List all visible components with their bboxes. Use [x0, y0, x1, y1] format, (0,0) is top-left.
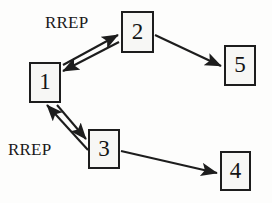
- edge-2-to-5: [155, 35, 221, 66]
- node-2[interactable]: 2: [121, 11, 154, 53]
- diagram-canvas: 1 2 3 4 5 RREP RREP: [0, 0, 272, 203]
- node-1[interactable]: 1: [29, 62, 61, 103]
- node-3[interactable]: 3: [88, 129, 120, 169]
- node-4-label: 4: [230, 159, 242, 182]
- edge-2-to-1: [63, 42, 119, 71]
- edge-1-to-2: [63, 35, 118, 65]
- edge-3-to-4: [121, 151, 217, 173]
- node-5[interactable]: 5: [224, 45, 256, 86]
- edge-3-to-1: [47, 105, 88, 150]
- node-3-label: 3: [98, 137, 110, 160]
- node-5-label: 5: [234, 53, 246, 76]
- node-1-label: 1: [39, 70, 51, 93]
- node-4[interactable]: 4: [220, 151, 251, 191]
- edge-label-rrep-top: RREP: [45, 13, 88, 33]
- edge-label-rrep-bottom: RREP: [8, 140, 51, 160]
- node-2-label: 2: [132, 20, 144, 43]
